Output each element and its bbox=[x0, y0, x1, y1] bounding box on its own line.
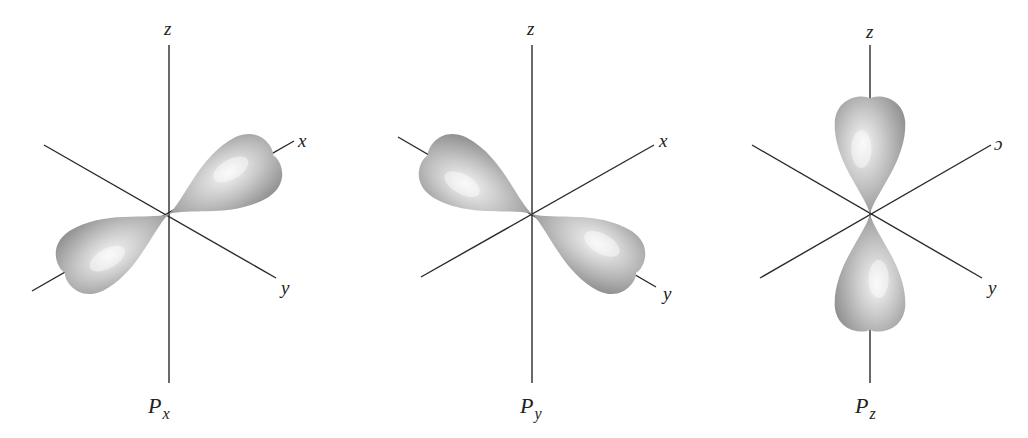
y-axis-label: y bbox=[986, 277, 997, 298]
z-axis-label: z bbox=[163, 18, 172, 39]
orbital-lobe-b bbox=[46, 184, 186, 304]
orbital-lobe-a bbox=[835, 96, 906, 214]
orbital-lobe-a bbox=[152, 124, 292, 244]
z-axis-label: z bbox=[865, 21, 874, 42]
orbital-title: Px bbox=[147, 393, 170, 422]
orbital-lobe-b bbox=[835, 214, 906, 332]
orbital-title: Py bbox=[519, 393, 542, 423]
panel-pz: ɔyzPz bbox=[752, 21, 1002, 422]
x-axis-label: ɔ bbox=[994, 133, 1002, 154]
y-axis-label: y bbox=[279, 277, 290, 298]
y-axis-label: y bbox=[661, 283, 672, 304]
panel-py: xyzPy bbox=[398, 18, 672, 423]
orbital-lobe-b bbox=[515, 184, 655, 304]
z-axis-label: z bbox=[526, 18, 535, 39]
x-axis-label: x bbox=[297, 130, 307, 151]
panel-px: xyzPx bbox=[32, 18, 307, 422]
x-axis-label: x bbox=[658, 130, 668, 151]
orbital-title: Pz bbox=[854, 393, 876, 422]
p-orbitals-diagram: xyzPx xyzPy ɔyzPz bbox=[0, 0, 1028, 438]
orbital-lobe-a bbox=[409, 124, 549, 244]
